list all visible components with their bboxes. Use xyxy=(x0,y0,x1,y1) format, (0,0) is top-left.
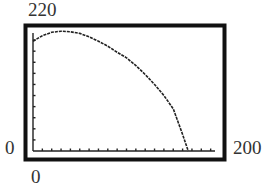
graph-window xyxy=(0,0,268,192)
tick-marks xyxy=(33,40,211,151)
graph-curve xyxy=(33,31,188,151)
axes xyxy=(33,33,215,151)
window-frame xyxy=(26,26,225,160)
